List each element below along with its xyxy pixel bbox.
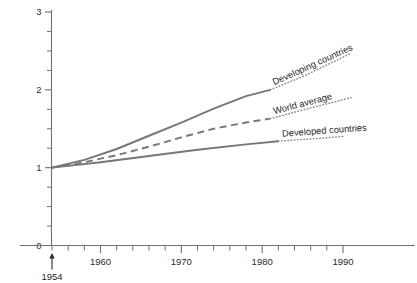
series-label-world-average: World average (272, 91, 333, 116)
series-line-developed-countries (52, 141, 278, 167)
x-axis: 1960197019801990 (20, 246, 415, 267)
chart-container: 0123 1960197019801990 1954 Developing co… (0, 0, 417, 283)
y-tick-label: 2 (36, 84, 41, 95)
series-extension-developing-countries (270, 53, 351, 90)
index-growth-line-chart: 0123 1960197019801990 1954 Developing co… (0, 0, 417, 283)
series-labels: Developing countriesWorld averageDevelop… (271, 42, 367, 139)
baseline-year-label: 1954 (41, 271, 62, 282)
series-label-developing-countries: Developing countries (271, 42, 355, 87)
x-tick-label: 1990 (332, 256, 353, 267)
series-label-developed-countries: Developed countries (282, 123, 368, 139)
series-line-developing-countries (52, 90, 270, 168)
arrow-up-icon (49, 253, 54, 259)
x-tick-label: 1960 (90, 256, 111, 267)
y-tick-label: 3 (36, 6, 41, 17)
x-tick-label: 1980 (252, 256, 273, 267)
x-tick-label: 1970 (171, 256, 192, 267)
y-axis: 0123 (36, 6, 51, 251)
baseline-year-annotation: 1954 (41, 253, 62, 282)
y-tick-label: 1 (36, 162, 41, 173)
